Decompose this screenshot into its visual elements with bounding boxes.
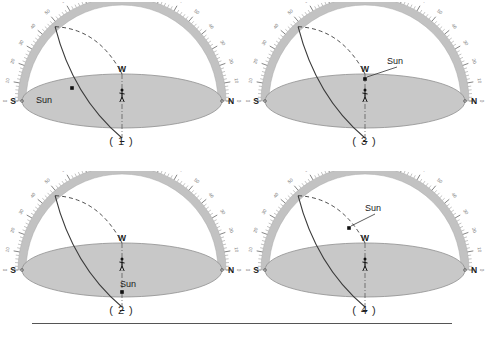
celestial-dome-diagram-1: 010203040506070809080706050403020100SNWE… <box>0 2 243 142</box>
altitude-tick-label: 40 <box>29 191 36 198</box>
altitude-tick-label: 30 <box>261 208 268 215</box>
diagram-caption-2: ( 2 ) <box>0 304 243 316</box>
altitude-tick-label: 50 <box>193 177 200 184</box>
sun-label: Sun <box>365 203 381 213</box>
altitude-tick-label: 40 <box>272 191 279 198</box>
altitude-tick-label: 40 <box>272 22 279 29</box>
altitude-tick-label: 0 <box>3 99 8 102</box>
diagram-caption-4: ( 4 ) <box>243 304 486 316</box>
altitude-tick-label: 10 <box>477 247 483 253</box>
sun-label: Sun <box>120 279 136 289</box>
altitude-tick-label: 10 <box>477 78 483 84</box>
altitude-tick-label: 0 <box>236 269 241 272</box>
compass-label-north: N <box>471 96 477 106</box>
compass-label-north: N <box>228 96 234 106</box>
altitude-tick-label: 30 <box>219 39 226 46</box>
altitude-tick-label: 40 <box>208 192 215 199</box>
compass-label-south: S <box>10 265 16 275</box>
altitude-tick-label: 50 <box>44 8 51 15</box>
altitude-tick-label: 0 <box>479 269 484 272</box>
altitude-tick-label: 40 <box>29 22 36 29</box>
celestial-dome-diagram-4: 010203040506070809080706050403020100SNWE… <box>243 171 486 311</box>
altitude-tick-label: 20 <box>253 227 260 234</box>
altitude-tick-label: 20 <box>471 227 478 234</box>
altitude-tick-label: 0 <box>246 268 251 271</box>
worksheet-figure: 010203040506070809080706050403020100SNWE… <box>0 0 486 338</box>
altitude-tick-label: 10 <box>234 247 240 253</box>
diagram-caption-1: ( 1 ) <box>0 135 243 147</box>
compass-label-north: N <box>228 265 234 275</box>
sun-marker <box>120 290 124 294</box>
altitude-tick-label: 60 <box>177 2 184 4</box>
diagram-caption-3: ( 3 ) <box>243 135 486 147</box>
sun-label: Sun <box>387 56 403 66</box>
altitude-tick-label: 50 <box>436 8 443 15</box>
diagram-cell-4: 010203040506070809080706050403020100SNWE… <box>243 171 486 331</box>
diagram-3: 010203040506070809080706050403020100SNWE… <box>243 2 486 142</box>
altitude-tick-label: 50 <box>436 177 443 184</box>
altitude-tick-label: 30 <box>18 208 25 215</box>
altitude-tick-label: 0 <box>236 100 241 103</box>
compass-label-west: W <box>118 233 127 243</box>
compass-label-west: W <box>118 64 127 74</box>
altitude-tick-label: 20 <box>10 58 17 65</box>
altitude-tick-label: 20 <box>228 227 235 234</box>
altitude-tick-label: 10 <box>234 78 240 84</box>
diagram-cell-3: 010203040506070809080706050403020100SNWE… <box>243 2 486 162</box>
compass-label-north: N <box>471 265 477 275</box>
altitude-tick-label: 60 <box>420 171 427 173</box>
celestial-dome-diagram-3: 010203040506070809080706050403020100SNWE… <box>243 2 486 142</box>
altitude-tick-label: 60 <box>60 2 67 4</box>
sun-marker <box>347 226 351 230</box>
compass-label-south: S <box>10 96 16 106</box>
altitude-tick-label: 60 <box>60 171 67 173</box>
altitude-tick-label: 40 <box>451 192 458 199</box>
altitude-tick-label: 60 <box>303 171 310 173</box>
altitude-tick-label: 40 <box>451 23 458 30</box>
diagram-1: 010203040506070809080706050403020100SNWE… <box>0 2 243 142</box>
altitude-tick-label: 40 <box>208 23 215 30</box>
sun-label: Sun <box>36 95 52 105</box>
altitude-tick-label: 20 <box>253 58 260 65</box>
altitude-tick-label: 20 <box>228 58 235 65</box>
altitude-tick-label: 30 <box>261 39 268 46</box>
altitude-tick-label: 30 <box>462 208 469 215</box>
compass-label-south: S <box>253 96 259 106</box>
altitude-tick-label: 0 <box>246 99 251 102</box>
compass-label-west: W <box>361 64 370 74</box>
altitude-tick-label: 10 <box>248 246 254 252</box>
altitude-tick-label: 60 <box>303 2 310 4</box>
altitude-tick-label: 30 <box>219 208 226 215</box>
diagram-cell-2: 010203040506070809080706050403020100SNWE… <box>0 171 243 331</box>
altitude-tick-label: 50 <box>44 177 51 184</box>
altitude-tick-label: 30 <box>18 39 25 46</box>
altitude-tick-label: 50 <box>193 8 200 15</box>
altitude-tick-label: 20 <box>10 227 17 234</box>
horizontal-divider <box>32 323 452 324</box>
altitude-tick-label: 60 <box>177 171 184 173</box>
altitude-tick-label: 0 <box>3 268 8 271</box>
celestial-dome-diagram-2: 010203040506070809080706050403020100SNWE… <box>0 171 243 311</box>
compass-label-west: W <box>361 233 370 243</box>
diagram-2: 010203040506070809080706050403020100SNWE… <box>0 171 243 311</box>
altitude-tick-label: 10 <box>5 246 11 252</box>
altitude-tick-label: 20 <box>471 58 478 65</box>
diagram-4: 010203040506070809080706050403020100SNWE… <box>243 171 486 311</box>
altitude-tick-label: 30 <box>462 39 469 46</box>
altitude-tick-label: 0 <box>479 100 484 103</box>
altitude-tick-label: 10 <box>248 77 254 83</box>
altitude-tick-label: 50 <box>287 8 294 15</box>
altitude-tick-label: 10 <box>5 77 11 83</box>
altitude-tick-label: 50 <box>287 177 294 184</box>
altitude-tick-label: 60 <box>420 2 427 4</box>
diagram-cell-1: 010203040506070809080706050403020100SNWE… <box>0 2 243 162</box>
sun-marker <box>363 77 367 81</box>
sun-marker <box>70 86 74 90</box>
compass-label-south: S <box>253 265 259 275</box>
